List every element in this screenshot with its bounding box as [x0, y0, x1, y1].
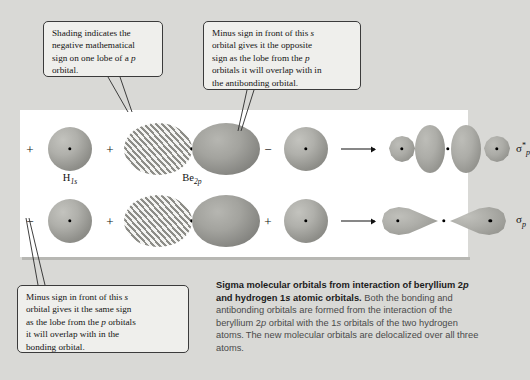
callout-bonding-line1: Minus sign in front of this s — [26, 292, 128, 302]
callout-antibonding: Minus sign in front of this s orbital gi… — [203, 21, 361, 90]
callout-shading: Shading indicates the negative mathemati… — [43, 21, 163, 77]
callout-shading-text-line3: sign on one lobe of a p — [52, 53, 136, 63]
callout-shading-text-line4: orbital. — [52, 65, 78, 75]
callout-bonding: Minus sign in front of this s orbital gi… — [17, 285, 189, 353]
callout-bonding-line3: as the lobe from the p orbitals — [26, 317, 136, 327]
callout-antibonding-line5: the antibonding orbital. — [212, 78, 298, 88]
callout-shading-text: Shading indicates the — [52, 28, 131, 38]
callout-bonding-line4: it will overlap with in the — [26, 329, 119, 339]
nucleus-dot — [495, 147, 498, 150]
callout-antibonding-line2: orbital gives it the opposite — [212, 40, 312, 50]
callout-bonding-line5: bonding orbital. — [26, 342, 85, 352]
callout-bonding-line2: orbital gives it the same sign — [26, 304, 131, 314]
sigma-bonding-label: σp — [516, 213, 526, 228]
callout-antibonding-line3: sign as the lobe from the p — [212, 53, 309, 63]
callout-antibonding-line1: Minus sign in front of this s — [212, 28, 314, 38]
callout-antibonding-line4: orbitals it will overlap with in — [212, 65, 321, 75]
sigma-antibonding-label: σ*p — [516, 141, 530, 158]
callout-shading-text-line2: negative mathematical — [52, 40, 135, 50]
